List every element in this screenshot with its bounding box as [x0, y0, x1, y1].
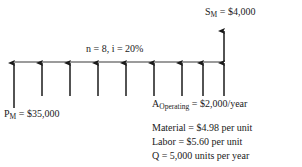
salvage-symbol: S [205, 6, 211, 17]
salvage-equals: = [217, 6, 228, 17]
note-material: Material = $4.98 per unit [152, 122, 252, 136]
operating-subscript: Operating [159, 102, 189, 111]
initial-cost-symbol: P [4, 108, 10, 119]
initial-cost-value: $35,000 [27, 108, 60, 119]
note-quantity: Q = 5,000 units per year [152, 150, 252, 164]
notes-block: Material = $4.98 per unit Labor = $5.60 … [152, 122, 252, 164]
initial-cost-equals: = [16, 108, 27, 119]
salvage-value: $4,000 [228, 6, 256, 17]
salvage-value-label: SM = $4,000 [205, 6, 255, 17]
initial-cost-subscript: M [10, 112, 17, 121]
operating-equals: = [189, 98, 200, 109]
note-labor: Labor = $5.60 per unit [152, 136, 252, 150]
initial-cost-label: PM = $35,000 [4, 108, 59, 119]
diagram-canvas [0, 0, 302, 167]
timeline-period-label: n = 8, i = 20% [86, 43, 143, 54]
operating-value: $2,000/year [200, 98, 248, 109]
cash-flow-diagram: SM = $4,000 n = 8, i = 20% PM = $35,000 … [0, 0, 302, 167]
operating-cost-label: AOperating = $2,000/year [152, 98, 247, 109]
salvage-subscript: M [211, 10, 218, 19]
